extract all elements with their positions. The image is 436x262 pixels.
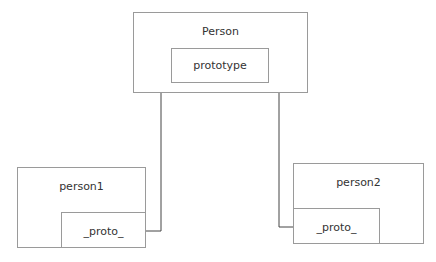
prototype-label: prototype (172, 59, 268, 72)
person1-proto-label: _proto_ (62, 225, 145, 238)
person2-proto-label: _proto_ (294, 221, 379, 234)
person1-proto-box: _proto_ (61, 212, 146, 248)
person2-label: person2 (294, 176, 423, 189)
person-label: Person (134, 25, 307, 38)
person1-label: person1 (18, 180, 145, 193)
person2-proto-box: _proto_ (293, 208, 380, 244)
prototype-box: prototype (171, 48, 269, 83)
